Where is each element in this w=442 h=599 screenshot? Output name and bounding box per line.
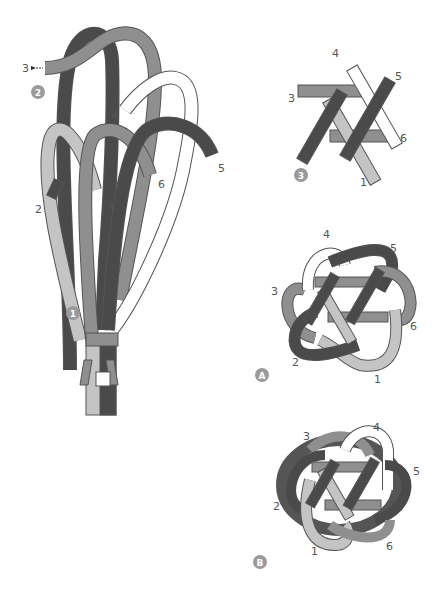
label-3-low: 3 bbox=[108, 202, 115, 215]
panel-step-B: 3 4 5 2 6 1 B bbox=[253, 421, 420, 569]
label-4: 4 bbox=[111, 109, 118, 122]
label-6: 6 bbox=[410, 320, 417, 333]
label-3-top: 3 bbox=[22, 62, 29, 75]
label-1: 1 bbox=[360, 176, 367, 189]
svg-text:2: 2 bbox=[35, 88, 41, 98]
label-1: 1 bbox=[311, 545, 318, 558]
label-1: 1 bbox=[374, 373, 381, 386]
label-6: 6 bbox=[158, 178, 165, 191]
label-2: 2 bbox=[292, 356, 299, 369]
panel-step-3: 4 5 3 6 2 1 3 bbox=[288, 47, 407, 189]
label-2: 2 bbox=[302, 152, 309, 165]
binding-wrap bbox=[86, 333, 118, 346]
label-4: 4 bbox=[323, 228, 330, 241]
svg-text:1: 1 bbox=[70, 309, 76, 319]
label-5: 5 bbox=[413, 465, 420, 478]
knot-diagram: 3 4 5 6 2 3 2 1 4 5 3 6 2 1 3 bbox=[0, 0, 442, 599]
svg-text:3: 3 bbox=[298, 171, 304, 181]
panel-steps-1-2: 3 4 5 6 2 3 2 1 bbox=[22, 33, 225, 415]
panel-step-A: 4 5 3 6 2 1 A bbox=[255, 228, 417, 386]
label-4: 4 bbox=[332, 47, 339, 60]
svg-text:B: B bbox=[257, 558, 264, 568]
label-5: 5 bbox=[390, 242, 397, 255]
svg-text:A: A bbox=[259, 371, 266, 381]
label-5: 5 bbox=[218, 162, 225, 175]
label-4: 4 bbox=[373, 421, 380, 434]
label-6: 6 bbox=[386, 540, 393, 553]
label-3: 3 bbox=[303, 430, 310, 443]
label-3: 3 bbox=[271, 285, 278, 298]
label-3: 3 bbox=[288, 92, 295, 105]
label-6: 6 bbox=[400, 132, 407, 145]
label-5: 5 bbox=[395, 70, 402, 83]
label-2: 2 bbox=[35, 203, 42, 216]
label-2: 2 bbox=[273, 500, 280, 513]
